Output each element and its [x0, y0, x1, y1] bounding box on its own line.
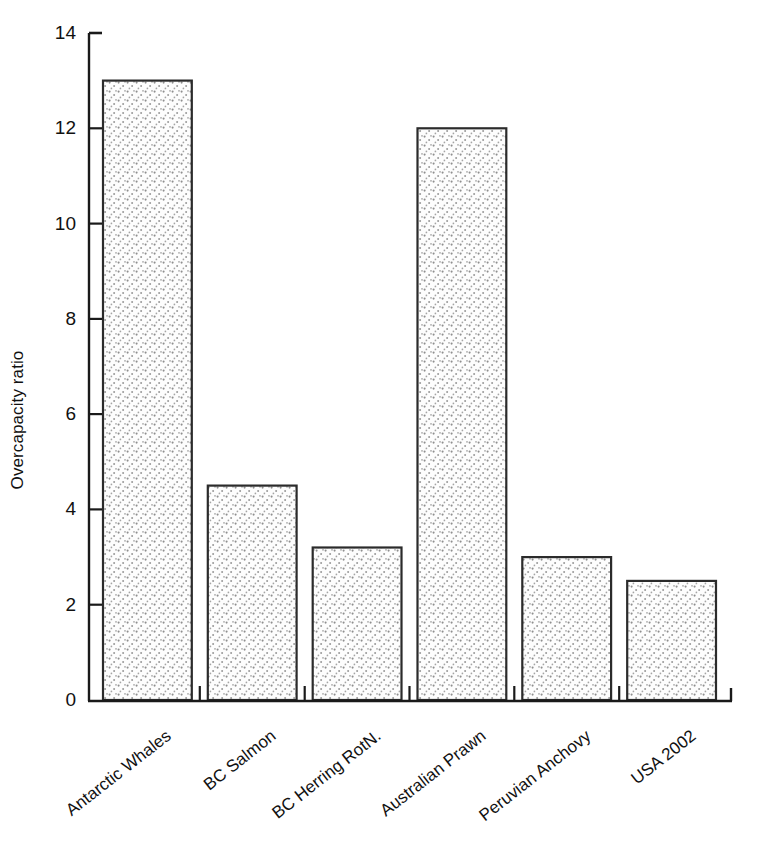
y-tick-label: 12 [40, 118, 76, 137]
plot-area [0, 0, 757, 859]
bar-chart: Overcapacity ratio 02468101214 Antarctic… [0, 0, 757, 859]
bar [103, 81, 192, 700]
bars-group [103, 81, 716, 700]
y-tick-label: 0 [40, 690, 76, 709]
y-tick-label: 2 [40, 595, 76, 614]
bar [208, 486, 297, 700]
y-tick-label: 4 [40, 499, 76, 518]
bar [522, 557, 611, 700]
y-tick-label: 10 [40, 214, 76, 233]
y-tick-label: 14 [40, 23, 76, 42]
bar [627, 581, 716, 700]
y-tick-label: 6 [40, 404, 76, 423]
bar [313, 548, 402, 701]
bar [418, 128, 507, 700]
y-tick-marks [89, 33, 102, 605]
y-tick-label: 8 [40, 309, 76, 328]
